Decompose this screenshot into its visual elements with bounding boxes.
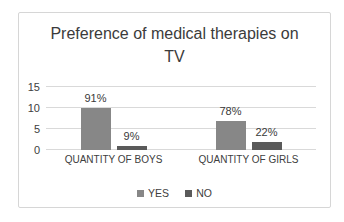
bar-value-label-no-0: 9% — [107, 130, 157, 142]
legend-item-yes: YES — [137, 187, 169, 199]
bar-value-label-no-1: 22% — [242, 126, 292, 138]
bar-value-label-yes-1: 78% — [206, 105, 256, 117]
y-tick-label-5: 5 — [19, 123, 40, 135]
x-category-label-0: QUANTITY OF BOYS — [46, 154, 181, 166]
y-tick-label-15: 15 — [19, 81, 40, 93]
legend-swatch-yes — [137, 190, 144, 197]
x-category-label-1: QUANTITY OF GIRLS — [181, 154, 316, 166]
chart-title: Preference of medical therapies on TV — [49, 22, 301, 68]
y-tick-label-0: 0 — [19, 144, 40, 156]
legend-swatch-no — [185, 190, 192, 197]
bar-no-1 — [252, 142, 282, 150]
y-tick-label-10: 10 — [19, 102, 40, 114]
x-axis-labels: QUANTITY OF BOYSQUANTITY OF GIRLS — [46, 154, 316, 167]
bar-chart: Preference of medical therapies on TV 05… — [18, 12, 331, 208]
plot-area: 91%9%78%22% — [46, 87, 316, 150]
legend-item-no: NO — [185, 187, 212, 199]
legend: YESNO — [19, 187, 330, 199]
bar-no-0 — [117, 146, 147, 150]
bar-value-label-yes-0: 91% — [71, 92, 121, 104]
legend-label-yes: YES — [148, 187, 169, 199]
y-axis: 051015 — [19, 87, 40, 150]
legend-label-no: NO — [196, 187, 212, 199]
gridline-15 — [46, 86, 316, 87]
